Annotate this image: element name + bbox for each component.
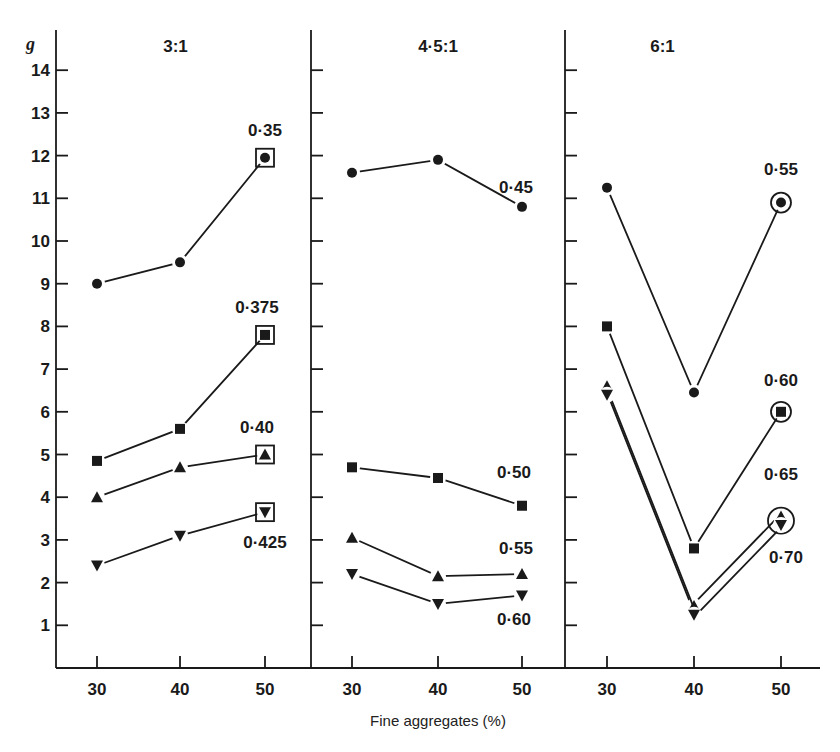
y-tick-label: 3 <box>41 531 50 550</box>
x-tick-label: 30 <box>343 680 362 699</box>
y-tick-label: 8 <box>41 317 50 336</box>
y-tick-label: 13 <box>31 104 50 123</box>
series-line <box>610 395 784 615</box>
series-label: 0·55 <box>764 160 798 179</box>
series-label: 0·60 <box>497 610 531 629</box>
y-tick-label: 6 <box>41 403 50 422</box>
series-0-35-panel-1: 0·35 <box>89 121 282 292</box>
series-label: 0·35 <box>248 121 282 140</box>
series-label: 0·50 <box>497 463 531 482</box>
x-tick-label: 30 <box>598 680 617 699</box>
panel-title: 3:1 <box>163 37 188 56</box>
y-tick-label: 11 <box>32 189 50 208</box>
x-axis-title: Fine aggregates (%) <box>370 712 506 729</box>
y-tick-label: 9 <box>41 275 50 294</box>
series-0-70-panel-3: 0·70 <box>599 387 803 623</box>
series-layer: 0·350·3750·400·4250·450·500·550·600·550·… <box>89 121 803 630</box>
series-0-55-panel-2: 0·55 <box>344 530 533 584</box>
series-label: 0·55 <box>499 539 533 558</box>
series-label: 0·40 <box>240 418 274 437</box>
y-tick-label: 7 <box>41 360 50 379</box>
series-label: 0·65 <box>764 465 798 484</box>
series-line <box>605 386 779 606</box>
x-tick-label: 40 <box>171 680 190 699</box>
x-tick-label: 50 <box>513 680 532 699</box>
y-tick-label: 2 <box>41 574 50 593</box>
x-tick-label: 50 <box>772 680 791 699</box>
y-tick-label: 5 <box>41 446 50 465</box>
series-line <box>607 188 781 393</box>
series-label: 0·375 <box>235 298 278 317</box>
y-tick-label: 4 <box>41 488 51 507</box>
panel-title: 6:1 <box>650 37 675 56</box>
y-axis-label: g <box>25 34 35 54</box>
y-tick-label: 12 <box>31 147 50 166</box>
series-0-375-panel-1: 0·375 <box>89 298 279 469</box>
x-tick-label: 30 <box>88 680 107 699</box>
series-0-50-panel-2: 0·50 <box>344 459 531 513</box>
series-line <box>607 326 781 548</box>
series-label: 0·45 <box>499 178 533 197</box>
y-tick-label: 14 <box>31 61 50 80</box>
x-tick-label: 50 <box>256 680 275 699</box>
series-0-425-panel-1: 0·425 <box>89 503 287 573</box>
series-label: 0·70 <box>769 548 803 567</box>
panel-title: 4·5:1 <box>418 37 458 56</box>
series-label: 0·60 <box>764 371 798 390</box>
series-line <box>97 335 265 461</box>
x-tick-label: 40 <box>685 680 704 699</box>
y-tick-label: 1 <box>41 616 50 635</box>
figure: 3040503:13040504·5:13040506:112345678910… <box>0 0 840 752</box>
y-tick-label: 10 <box>31 232 50 251</box>
series-0-65-panel-3: 0·65 <box>599 378 798 614</box>
x-tick-label: 40 <box>429 680 448 699</box>
axes: 3040503:13040504·5:13040506:112345678910… <box>31 30 820 699</box>
series-label: 0·425 <box>243 533 286 552</box>
series-0-55-panel-3: 0·55 <box>599 160 798 401</box>
series-0-45-panel-2: 0·45 <box>344 152 533 215</box>
